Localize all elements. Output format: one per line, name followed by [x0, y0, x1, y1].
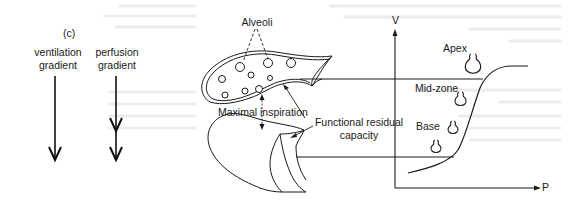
alveoli-pointer-lines: [243, 29, 268, 62]
y-axis-label-volume: V: [392, 15, 399, 26]
frc-label-line2: capacity: [340, 130, 379, 141]
lung-functional-residual-capacity: [208, 113, 306, 192]
apex-bulb-icon: [465, 54, 480, 73]
figure-canvas: (c) ventilation gradient perfusion gradi…: [0, 0, 570, 203]
frc-label-line1: Functional residual: [315, 117, 403, 128]
alveoli-label: Alveoli: [242, 17, 273, 28]
base-zone-label: Base: [416, 121, 440, 132]
ventilation-gradient-label-line1: ventilation: [34, 47, 81, 58]
panel-label: (c): [63, 28, 75, 39]
perfusion-gradient-label-line1: perfusion: [95, 47, 138, 58]
x-axis-label-pressure: P: [542, 182, 549, 193]
perfusion-gradient-label-line2: gradient: [98, 60, 136, 71]
mid-zone-bulb-icon: [455, 92, 466, 106]
lower-base-bulb-icon: [431, 140, 441, 153]
ventilation-gradient-arrow: [49, 76, 61, 160]
alveoli-circles: [219, 59, 296, 99]
ventilation-gradient-label-line2: gradient: [39, 60, 77, 71]
alveolus-bulbs: [431, 54, 481, 153]
perfusion-gradient-arrow: [110, 76, 122, 160]
diagram-graphics: [0, 0, 570, 203]
apex-zone-label: Apex: [443, 43, 467, 54]
maximal-inspiration-label: Maximal inspiration: [218, 107, 308, 118]
base-bulb-icon: [448, 121, 458, 134]
mid-zone-label: Mid-zone: [415, 83, 458, 94]
